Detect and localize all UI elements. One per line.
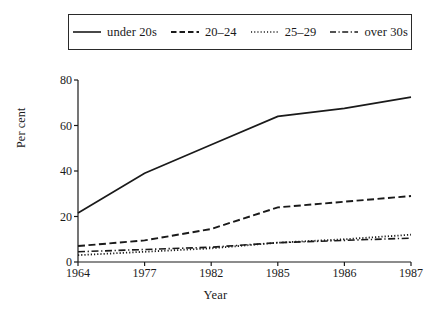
x-tick-label-1964: 1964 xyxy=(55,266,101,281)
axis-lines xyxy=(78,80,411,262)
x-tick-label-1986: 1986 xyxy=(321,266,367,281)
x-tick-label-1985: 1985 xyxy=(255,266,301,281)
series-line-under-20s xyxy=(78,97,411,213)
data-series-layer xyxy=(78,97,411,255)
x-tick-label-1977: 1977 xyxy=(122,266,168,281)
x-tick-label-1982: 1982 xyxy=(188,266,234,281)
x-axis-title: Year xyxy=(0,288,431,303)
series-line-20-24 xyxy=(78,196,411,246)
chart-figure: under 20s 20–24 25–29 over 30s Per cent … xyxy=(0,0,431,313)
series-line-over-30s xyxy=(78,238,411,252)
x-tick-label-1987: 1987 xyxy=(388,266,431,281)
